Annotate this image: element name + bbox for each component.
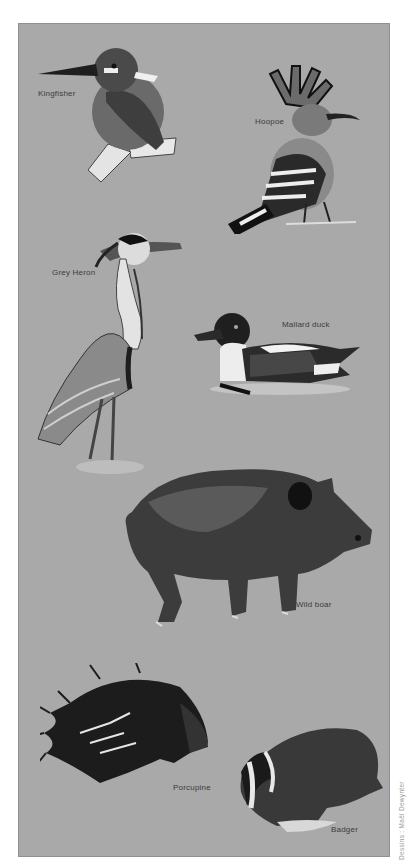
label-grey-heron: Grey Heron [52,268,95,277]
illustration-credit: Dessins : Maël Dewynter [398,781,405,860]
label-mallard-duck: Mallard duck [282,320,330,329]
label-porcupine: Porcupine [173,783,211,792]
label-wild-boar: Wild boar [296,600,332,609]
porcupine-illustration [40,663,212,788]
mallard-duck-illustration [190,309,365,404]
badger-illustration [237,722,387,832]
label-hoopoe: Hoopoe [255,117,284,126]
kingfisher-illustration [36,42,181,182]
label-badger: Badger [331,825,358,834]
wild-boar-illustration [118,462,373,642]
label-kingfisher: Kingfisher [38,89,76,98]
hoopoe-illustration [226,64,366,234]
